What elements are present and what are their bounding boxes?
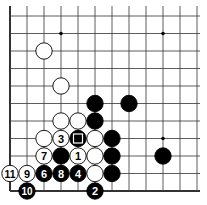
white-stone-disc [70, 113, 86, 129]
stone-move-11: 11 [2, 165, 18, 181]
black-stone [155, 148, 171, 164]
black-stone [70, 130, 86, 146]
black-stone-disc [121, 95, 137, 111]
white-stone [70, 113, 86, 129]
white-stone [36, 43, 52, 59]
move-number: 3 [58, 133, 64, 145]
black-stone-disc [87, 95, 103, 111]
stone-move-1: 1 [70, 148, 86, 164]
move-number: 2 [92, 185, 98, 197]
black-stone [104, 148, 120, 164]
black-stone-disc [87, 113, 103, 129]
star-point [161, 137, 165, 141]
stone-move-10: 10 [19, 183, 35, 199]
white-stone [87, 130, 103, 146]
white-stone-disc [87, 165, 103, 181]
black-stone-disc [155, 148, 171, 164]
stone-move-8: 8 [53, 165, 69, 181]
white-stone-disc [87, 130, 103, 146]
stone-move-4: 4 [70, 165, 86, 181]
black-stone-disc [104, 165, 120, 181]
white-stone [87, 165, 103, 181]
white-stone-disc [36, 130, 52, 146]
white-stone [53, 113, 69, 129]
black-stone [121, 95, 137, 111]
stone-move-9: 9 [19, 165, 35, 181]
white-stone [53, 78, 69, 94]
black-stone [104, 165, 120, 181]
go-board: 371119684102 [0, 0, 207, 205]
move-number: 1 [75, 150, 81, 162]
black-stone [87, 113, 103, 129]
black-stone-disc [53, 148, 69, 164]
white-stone-disc [53, 78, 69, 94]
move-number: 8 [58, 168, 64, 180]
move-number: 6 [41, 168, 47, 180]
white-stone-disc [36, 43, 52, 59]
white-stone-disc [53, 113, 69, 129]
white-stone-disc [87, 148, 103, 164]
star-point [161, 32, 165, 36]
black-stone [104, 130, 120, 146]
move-number: 10 [22, 185, 33, 197]
stone-move-6: 6 [36, 165, 52, 181]
move-number: 11 [5, 168, 16, 180]
move-number: 9 [24, 168, 30, 180]
white-stone [87, 148, 103, 164]
stone-move-7: 7 [36, 148, 52, 164]
white-stone [36, 130, 52, 146]
black-stone [53, 148, 69, 164]
stone-move-2: 2 [87, 183, 103, 199]
black-stone-disc [70, 130, 86, 146]
black-stone-disc [104, 148, 120, 164]
stone-move-3: 3 [53, 130, 69, 146]
board-grid [10, 6, 200, 191]
move-number: 4 [75, 168, 82, 180]
black-stone [87, 95, 103, 111]
star-point [59, 32, 63, 36]
black-stone-disc [104, 130, 120, 146]
move-number: 7 [41, 150, 47, 162]
